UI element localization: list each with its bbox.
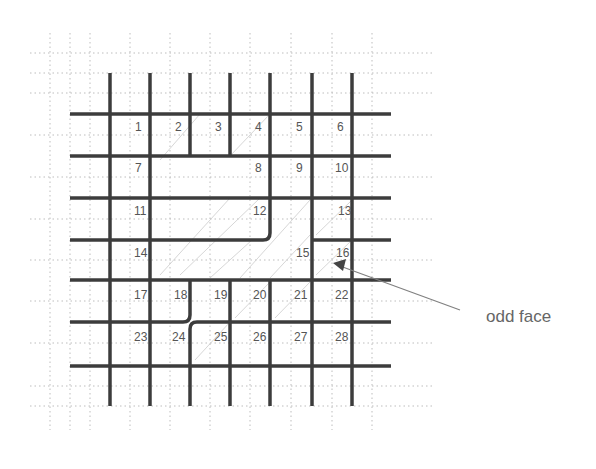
cell-label-27: 27 xyxy=(294,330,308,344)
cell-label-7: 7 xyxy=(135,161,142,175)
cell-label-28: 28 xyxy=(335,330,349,344)
grid-diagram: 1234567891011121314151617181920212223242… xyxy=(0,0,596,469)
cell-label-6: 6 xyxy=(337,120,344,134)
cell-label-16: 16 xyxy=(336,246,350,260)
arrow-head-icon xyxy=(333,259,346,271)
cell-label-24: 24 xyxy=(172,330,186,344)
cell-label-11: 11 xyxy=(134,204,147,218)
cell-label-12: 12 xyxy=(253,204,267,218)
cell-label-9: 9 xyxy=(296,161,303,175)
cell-label-15: 15 xyxy=(296,246,310,260)
cell-label-19: 19 xyxy=(214,288,228,302)
cell-label-18: 18 xyxy=(174,288,188,302)
cell-label-10: 10 xyxy=(335,161,349,175)
cell-label-1: 1 xyxy=(135,120,142,134)
cell-label-14: 14 xyxy=(134,246,148,260)
cell-label-20: 20 xyxy=(253,288,267,302)
cell-label-5: 5 xyxy=(296,120,303,134)
cell-label-25: 25 xyxy=(214,330,228,344)
cell-label-13: 13 xyxy=(338,204,352,218)
cell-label-4: 4 xyxy=(255,120,262,134)
cell-label-21: 21 xyxy=(294,288,308,302)
cell-label-8: 8 xyxy=(255,161,262,175)
cell-label-3: 3 xyxy=(215,120,222,134)
diagram-canvas: 1234567891011121314151617181920212223242… xyxy=(0,0,596,469)
odd-face-label: odd face xyxy=(486,307,551,326)
cell-label-17: 17 xyxy=(134,288,148,302)
cell-label-23: 23 xyxy=(134,330,148,344)
cell-label-22: 22 xyxy=(335,288,349,302)
cell-label-2: 2 xyxy=(175,120,182,134)
cell-label-26: 26 xyxy=(253,330,267,344)
